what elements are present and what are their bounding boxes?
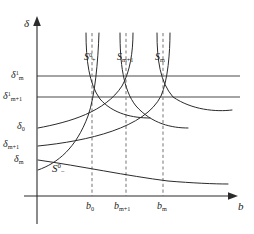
y-tick-delta-sup1-sub-m-plus-1: δ1m+1	[3, 91, 22, 102]
tick-sub: 0	[91, 205, 94, 212]
branch-falling-2	[120, 33, 188, 128]
branch-falling-3	[157, 33, 232, 111]
x-tick-b-sub-m-plus-1: bm+1	[114, 201, 130, 212]
x-tick-b-sub-m: bm	[157, 201, 167, 212]
curve-label-S-m: Sm	[155, 52, 165, 63]
x-tick-b-sub-0: b0	[86, 201, 94, 212]
tick-sub: m+1	[11, 95, 22, 102]
y-tick-delta-sub-m-plus-1: δm+1	[3, 139, 19, 150]
y-axis-label: δ	[24, 18, 29, 29]
baseline-curve-delta-m	[38, 160, 228, 184]
tick-sub: m+1	[119, 205, 130, 212]
y-axis-arrowhead	[33, 16, 41, 26]
tick-sub: m+1	[8, 143, 19, 150]
curve-sub: m	[160, 56, 165, 63]
x-axis-label: b	[238, 201, 244, 212]
figure-root: δ b δ1m δ1m+1 δ0 δm+1 δm b0 bm+1 bm S0+ …	[0, 0, 254, 234]
tick-sub: m	[19, 74, 24, 81]
y-tick-delta-sub-0: δ0	[17, 121, 25, 132]
horizontal-reference-lines	[37, 76, 240, 97]
curve-label-S-plus-zero: S0+	[84, 52, 96, 63]
tick-sub: 0	[22, 125, 25, 132]
descending-branches	[86, 33, 232, 128]
tick-sub: m	[19, 158, 24, 165]
y-tick-delta-sub-m: δm	[14, 154, 23, 165]
x-axis-arrowhead	[228, 192, 238, 200]
axes-group	[24, 16, 238, 224]
curve-label-S-m-plus-1: Sm+1	[117, 52, 133, 63]
tick-sub: m	[162, 205, 167, 212]
curve-sub: +	[92, 56, 96, 63]
curve-sub: m+1	[122, 56, 133, 63]
region-label-S-minus-zero: S0−	[52, 163, 65, 176]
y-tick-delta-sup1-sub-m: δ1m	[11, 70, 24, 81]
ascending-branches	[38, 33, 170, 170]
baseline-curves	[38, 160, 228, 184]
branch-rising-3	[38, 33, 170, 146]
diagram-canvas	[0, 0, 254, 234]
region-sub: −	[61, 168, 65, 175]
branch-rising-2	[38, 33, 133, 128]
